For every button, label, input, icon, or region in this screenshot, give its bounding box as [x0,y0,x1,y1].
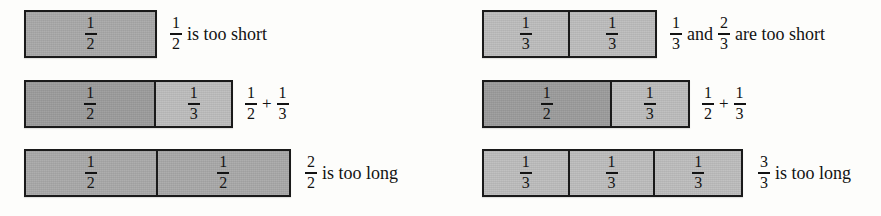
caption-text: and [687,24,713,45]
fraction-numerator: 2 [718,15,730,32]
fraction-denominator: 2 [541,105,553,122]
fraction-numerator: 1 [644,85,656,102]
cell-fraction-label: 12 [217,154,229,191]
fraction-numerator: 1 [520,154,532,171]
caption-fraction: 33 [758,154,770,191]
row-caption: 33is too long [758,149,856,197]
fraction-denominator: 3 [670,35,682,52]
fraction-bar: 12 [24,10,157,58]
fraction-denominator: 2 [170,35,182,52]
fraction-denominator: 2 [85,174,97,191]
caption-fraction: 22 [305,154,317,191]
fraction-denominator: 3 [277,105,289,122]
caption-fraction: 12 [702,85,714,122]
caption-fraction: 23 [718,15,730,52]
cell-fraction-label: 12 [541,85,553,122]
fraction-denominator: 3 [606,35,618,52]
cell-fraction-label: 13 [692,154,704,191]
fraction-bar-cell: 13 [570,12,656,56]
row-caption: 12is too short [170,10,272,58]
fraction-numerator: 1 [692,154,704,171]
row-caption: 12+13 [702,80,746,128]
cell-fraction-label: 12 [85,15,97,52]
fraction-denominator: 2 [84,105,96,122]
fraction-bar: 1213 [24,80,233,128]
cell-fraction-label: 12 [84,85,96,122]
fraction-denominator: 2 [305,174,317,191]
fraction-numerator: 1 [520,15,532,32]
fraction-denominator: 3 [188,105,200,122]
fraction-denominator: 2 [217,174,229,191]
fraction-numerator: 1 [245,85,257,102]
fraction-numerator: 1 [85,154,97,171]
fraction-bar-cell: 13 [570,151,656,195]
caption-text: is too long [322,163,398,184]
fraction-denominator: 3 [606,174,618,191]
fraction-bar-cell: 13 [484,151,570,195]
caption-fraction: 13 [734,85,746,122]
fraction-bar-cell: 12 [26,151,158,195]
caption-text: is too long [775,163,851,184]
fraction-denominator: 2 [245,105,257,122]
cell-fraction-label: 13 [520,15,532,52]
fraction-bar-cell: 12 [484,82,612,126]
fraction-denominator: 3 [692,174,704,191]
row-caption: 22is too long [305,149,403,197]
caption-fraction: 13 [277,85,289,122]
fraction-numerator: 1 [277,85,289,102]
caption-text: is too short [187,24,267,45]
right-panel: 131313and23are too short121312+131313133… [440,0,881,216]
fraction-denominator: 3 [734,105,746,122]
fraction-denominator: 2 [85,35,97,52]
fraction-numerator: 1 [217,154,229,171]
cell-fraction-label: 13 [606,15,618,52]
cell-fraction-label: 13 [188,85,200,122]
fraction-numerator: 1 [84,85,96,102]
fraction-bar-cell: 13 [156,82,231,126]
cell-fraction-label: 13 [606,154,618,191]
row-caption: 13and23are too short [670,10,830,58]
plus-operator: + [262,94,272,114]
fraction-numerator: 1 [170,15,182,32]
fraction-numerator: 1 [670,15,682,32]
fraction-numerator: 1 [188,85,200,102]
fraction-bar-cell: 13 [655,151,741,195]
fraction-bar: 1212 [24,149,291,197]
fraction-numerator: 3 [758,154,770,171]
fraction-denominator: 3 [718,35,730,52]
caption-fraction: 12 [245,85,257,122]
fraction-denominator: 3 [520,35,532,52]
fraction-bar-cell: 12 [158,151,290,195]
fraction-bar: 1213 [482,80,690,128]
fraction-numerator: 1 [702,85,714,102]
fraction-numerator: 2 [305,154,317,171]
fraction-bar-cell: 12 [26,82,156,126]
fraction-denominator: 3 [644,105,656,122]
plus-operator: + [719,94,729,114]
caption-fraction: 12 [170,15,182,52]
fraction-denominator: 2 [702,105,714,122]
left-panel: 1212is too short121312+13121222is too lo… [0,0,440,216]
fraction-denominator: 3 [520,174,532,191]
caption-text: are too short [735,24,825,45]
fraction-numerator: 1 [606,15,618,32]
cell-fraction-label: 13 [644,85,656,122]
fraction-numerator: 1 [541,85,553,102]
caption-fraction: 13 [670,15,682,52]
fraction-denominator: 3 [758,174,770,191]
fraction-numerator: 1 [85,15,97,32]
fraction-bar: 1313 [482,10,657,58]
fraction-bar-cell: 13 [612,82,689,126]
cell-fraction-label: 13 [520,154,532,191]
fraction-bar-cell: 12 [26,12,155,56]
fraction-bar-cell: 13 [484,12,570,56]
fraction-numerator: 1 [606,154,618,171]
fraction-figure: 1212is too short121312+13121222is too lo… [0,0,881,216]
fraction-numerator: 1 [734,85,746,102]
row-caption: 12+13 [245,80,289,128]
fraction-bar: 131313 [482,149,743,197]
cell-fraction-label: 12 [85,154,97,191]
